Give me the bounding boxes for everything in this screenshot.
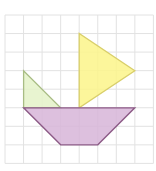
grid-diagram — [0, 0, 156, 171]
yellow-triangle — [79, 34, 135, 108]
